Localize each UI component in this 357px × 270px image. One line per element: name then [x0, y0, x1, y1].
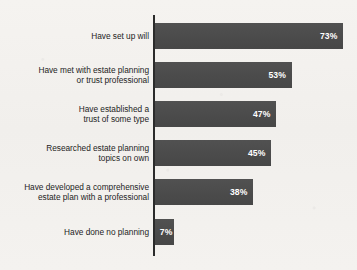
bar-value-label: 53% — [268, 71, 286, 80]
bar-row: Researched estate planning topics on own… — [0, 140, 357, 166]
bar: 45% — [155, 140, 271, 166]
bar-category-label: Have set up will — [1, 31, 149, 41]
bar-category-label: Have met with estate planning or trust p… — [1, 65, 149, 85]
bar-value-label: 7% — [160, 228, 173, 237]
bar: 47% — [155, 101, 276, 127]
bar: 38% — [155, 179, 253, 205]
bar-row: Have met with estate planning or trust p… — [0, 62, 357, 88]
bar-chart: Have set up will 73% Have met with estat… — [0, 0, 357, 270]
bar: 7% — [155, 219, 174, 245]
bar-value-label: 73% — [320, 32, 338, 41]
bar-category-label: Have established a trust of some type — [1, 104, 149, 124]
bar-row: Have done no planning 7% — [0, 219, 357, 245]
bar-value-label: 47% — [253, 110, 271, 119]
bar-category-label: Researched estate planning topics on own — [1, 143, 149, 163]
bar-category-label: Have developed a comprehensive estate pl… — [1, 182, 149, 202]
bar-row: Have established a trust of some type 47… — [0, 101, 357, 127]
bar-category-label: Have done no planning — [1, 227, 149, 237]
bar-row: Have developed a comprehensive estate pl… — [0, 179, 357, 205]
plot-area: Have set up will 73% Have met with estat… — [0, 0, 357, 270]
bar: 73% — [155, 23, 343, 49]
bar-value-label: 38% — [230, 188, 248, 197]
bar: 53% — [155, 62, 292, 88]
bar-value-label: 45% — [248, 149, 266, 158]
bar-row: Have set up will 73% — [0, 23, 357, 49]
